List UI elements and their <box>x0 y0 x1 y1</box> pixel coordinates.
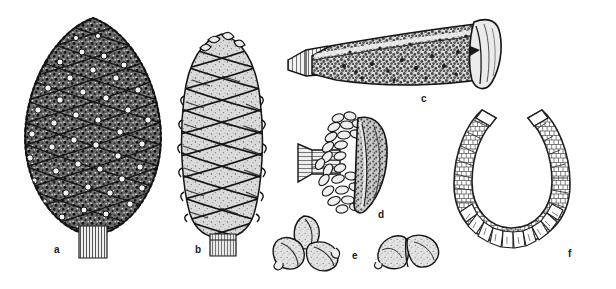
figure-c-scale-lateral <box>284 16 506 102</box>
seed-left <box>273 238 304 270</box>
seed-pair-right <box>407 235 438 267</box>
illustration-plate: a <box>0 0 616 289</box>
seed-pair-left <box>374 236 408 269</box>
cone-a-body <box>2 6 184 260</box>
seed-right <box>307 242 340 271</box>
figure-b-cone-light <box>170 28 275 258</box>
figure-label-d: d <box>378 210 384 220</box>
figure-label-a: a <box>54 245 60 255</box>
figure-label-c: c <box>421 94 427 104</box>
cone-a-peduncle <box>79 226 107 258</box>
figure-e-seed-cluster-three <box>268 214 348 278</box>
figure-label-b: b <box>195 245 201 255</box>
cone-b-body <box>164 32 280 248</box>
figure-d-scale-with-seeds <box>294 112 390 218</box>
figure-e-seed-pair <box>372 232 444 274</box>
scale-c-apophysis <box>470 20 502 89</box>
scale-d-apophysis <box>354 117 387 213</box>
figure-a-cone-dark <box>8 10 178 260</box>
figure-label-e: e <box>352 251 358 261</box>
cone-b-peduncle <box>210 234 236 256</box>
figure-label-f: f <box>568 249 571 259</box>
scale-c-body <box>312 24 494 85</box>
ring-f-arm-tips <box>476 110 548 126</box>
figure-f-cross-section-ring <box>446 104 578 256</box>
